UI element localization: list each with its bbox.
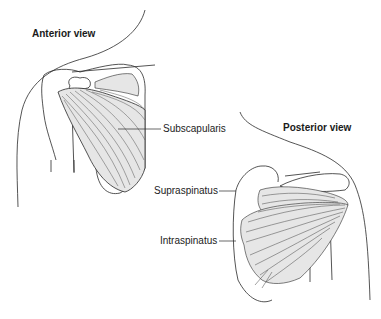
anterior-view-title: Anterior view — [32, 29, 95, 39]
supraspinatus-label: Supraspinatus — [154, 186, 218, 196]
intraspinatus-label: Intraspinatus — [160, 236, 217, 246]
rotator-cuff-diagram: Anterior view Posterior view Subscapular… — [0, 0, 381, 319]
subscapularis-label: Subscapularis — [163, 124, 226, 134]
subscapularis-muscle — [58, 74, 145, 192]
posterior-view-title: Posterior view — [283, 123, 351, 133]
